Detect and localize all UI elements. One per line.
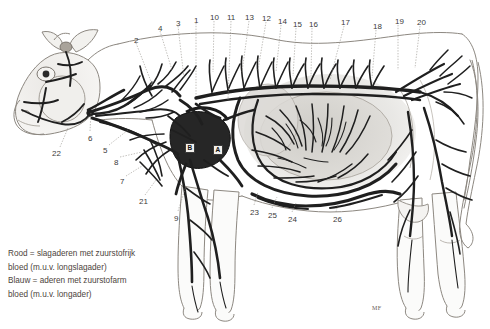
artist-signature: MF <box>372 305 381 311</box>
legend-line-1: Rood = slagaderen met zuurstofrijk <box>8 247 188 261</box>
legend: Rood = slagaderen met zuurstofrijk bloed… <box>8 247 188 301</box>
legend-line-4: bloed (m.u.v. longader) <box>8 288 188 302</box>
legend-line-2: bloed (m.u.v. longslagader) <box>8 261 188 275</box>
legend-line-3: Blauw = aderen met zuurstofarm <box>8 274 188 288</box>
